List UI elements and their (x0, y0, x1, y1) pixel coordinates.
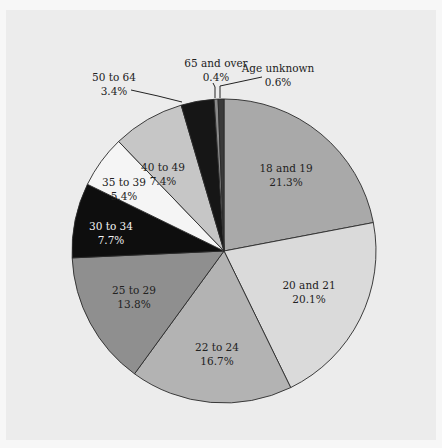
pie-chart: 18 and 1921.3%20 and 2120.1%22 to 2416.7… (0, 0, 442, 448)
slice-category-label: 35 to 39 (102, 176, 146, 188)
slice-category-label: 20 and 21 (282, 279, 335, 291)
slice-value-label: 16.7% (200, 355, 233, 367)
leader-line (131, 90, 182, 102)
leader-line (213, 83, 215, 98)
slice-value-label: 7.7% (98, 234, 125, 246)
slice-category-label: 18 and 19 (259, 162, 312, 174)
slice-category-label: Age unknown (241, 62, 315, 74)
slice-value-label: 13.8% (117, 298, 150, 310)
slice-category-label: 22 to 24 (195, 341, 239, 353)
slice-value-label: 7.4% (150, 175, 177, 187)
slice-value-label: 21.3% (269, 176, 302, 188)
slice-value-label: 20.1% (292, 293, 325, 305)
slice-value-label: 5.4% (111, 190, 138, 202)
slice-category-label: 30 to 34 (89, 220, 133, 232)
slice-category-label: 50 to 64 (92, 71, 136, 83)
slice-category-label: 25 to 29 (112, 284, 156, 296)
slice-value-label: 0.4% (203, 71, 230, 83)
slice-value-label: 0.6% (265, 76, 292, 88)
slice-category-label: 40 to 49 (141, 161, 185, 173)
leader-lines (131, 77, 262, 102)
chart-frame: 18 and 1921.3%20 and 2120.1%22 to 2416.7… (6, 10, 436, 440)
slice-value-label: 3.4% (101, 85, 128, 97)
slice-category-label: 65 and over (184, 57, 248, 69)
